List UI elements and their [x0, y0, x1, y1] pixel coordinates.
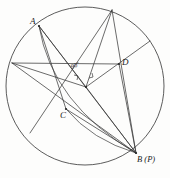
segment-F-D: [12, 63, 119, 64]
vertex-label-d: D: [122, 58, 129, 67]
segment-E-B: [112, 10, 136, 153]
segment-D-B: [119, 64, 136, 153]
vertex-dot-O: [85, 86, 87, 88]
geometry-canvas: [0, 0, 170, 178]
vertex-label-b: B (P): [137, 155, 155, 164]
vertex-label-a: A: [30, 17, 36, 26]
segment-group: [12, 10, 150, 153]
right-angle-tick-left: [74, 75, 78, 80]
vertex-dot-D: [118, 63, 120, 65]
segment-F-B: [12, 63, 136, 153]
vertex-dot-A: [38, 25, 40, 27]
segment-E-O: [86, 10, 112, 87]
segment-A-C: [39, 26, 66, 109]
vertex-label-c: C: [60, 111, 66, 120]
geometry-figure: A B (P) C D 90°: [0, 0, 170, 178]
